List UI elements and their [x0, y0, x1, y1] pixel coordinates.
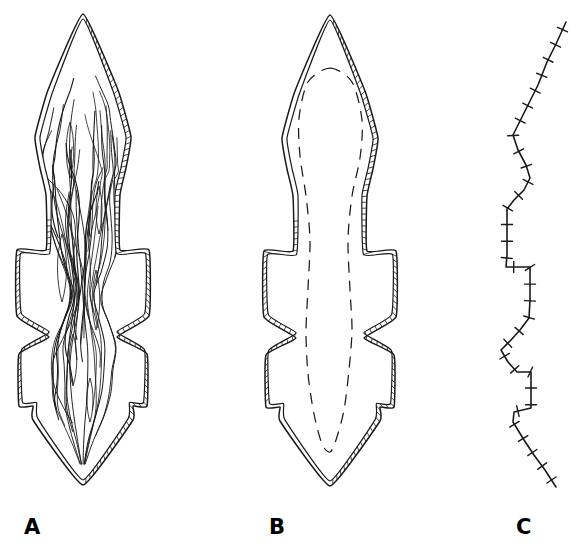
panel-label-a: A [24, 517, 40, 538]
figure-canvas [0, 0, 588, 553]
canvas-background [0, 0, 588, 553]
figure-root: A B C [0, 0, 588, 553]
panel-label-b: B [269, 517, 285, 538]
hatch-rung [294, 227, 298, 228]
hatch-rung [47, 226, 51, 227]
tick-mark [508, 135, 519, 136]
tick-mark [501, 258, 512, 259]
panel-label-c: C [516, 517, 531, 538]
